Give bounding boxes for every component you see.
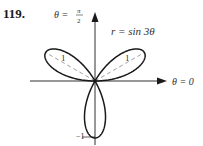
vertical-axis-arrow-icon (92, 12, 99, 22)
polar-axis-arrow-icon (157, 78, 167, 85)
polar-axis-label: θ = 0 (172, 76, 194, 87)
polar-plot: r = sin 3θ θ = 0 θ = π 2 1 1 −1 (0, 0, 203, 146)
vertical-axis-label-prefix: θ = (54, 9, 68, 20)
origin-point (93, 79, 96, 82)
petal-label-right: 1 (125, 53, 130, 63)
bottom-label: −1 (76, 132, 85, 141)
petal-label-left: 1 (61, 53, 66, 63)
vertical-axis-label-numerator: π (77, 7, 81, 15)
equation-label: r = sin 3θ (111, 25, 155, 37)
vertical-axis-label-denominator: 2 (77, 17, 81, 25)
